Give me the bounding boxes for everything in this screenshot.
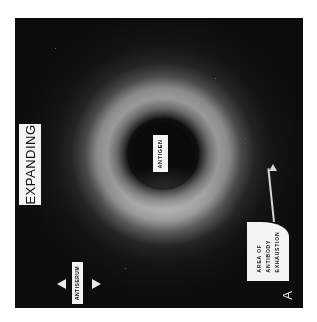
speck [55,48,56,49]
callout-line: AREA OF [255,231,264,272]
expanding-label-text: EXPANDING [23,124,38,204]
panel-letter: A [280,291,295,300]
callout-line: EXHAUSTION [273,231,282,272]
speck [125,268,126,269]
antiserum-label-text: ANTISERUM [75,266,81,300]
antigen-label-text: ANTIGEN [158,139,164,168]
speck [215,78,216,79]
antigen-label: ANTIGEN [153,135,168,172]
callout-line: ANTIBODY [264,231,273,272]
antibody-exhaustion-callout: AREA OF ANTIBODY EXHAUSTION [247,222,289,281]
immunodiffusion-photo: EXPANDING ANTIGEN ANTISERUM AREA OF ANTI… [15,18,303,308]
antiserum-label: ANTISERUM [72,262,83,304]
callout-text: AREA OF ANTIBODY EXHAUSTION [255,231,282,272]
pointer-right-icon [92,279,101,289]
expanding-label: EXPANDING [19,124,41,205]
pointer-left-icon [57,279,66,289]
arrow-head-icon [269,164,277,171]
speck [245,138,246,139]
